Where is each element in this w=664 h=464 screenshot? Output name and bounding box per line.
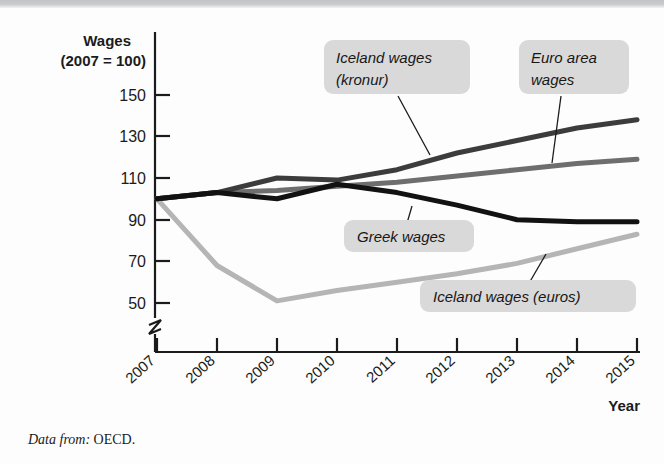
- y-axis-title-line1: Wages: [83, 32, 131, 49]
- x-tick-label-2007: 2007: [122, 352, 158, 387]
- x-tick-label-2011: 2011: [363, 352, 398, 386]
- wages-line-chart: Wages (2007 = 100) 150 130 110 90 70 50 …: [0, 0, 664, 464]
- callout-greek[interactable]: Greek wages: [344, 220, 474, 252]
- x-tick-label-2013: 2013: [482, 352, 518, 387]
- chart-series-layer: [157, 120, 637, 301]
- callout-euro-area[interactable]: Euro area wages: [519, 40, 629, 94]
- y-tick-label-110: 110: [120, 170, 146, 187]
- source-note: Data from: OECD.: [28, 432, 135, 448]
- y-tick-label-130: 130: [119, 128, 146, 145]
- x-tick-label-2015: 2015: [602, 352, 638, 387]
- source-note-value: OECD.: [94, 432, 136, 447]
- y-tick-label-70: 70: [128, 253, 146, 270]
- x-tick-label-2014: 2014: [542, 352, 578, 387]
- callout-label-iceland-euros: Iceland wages (euros): [433, 288, 581, 305]
- axis-break-symbol: [149, 320, 161, 334]
- x-tick-label-2008: 2008: [182, 352, 218, 387]
- x-tick-label-2012: 2012: [422, 352, 458, 387]
- y-axis-title-line2: (2007 = 100): [61, 52, 146, 69]
- source-note-label: Data from:: [28, 432, 90, 447]
- callout-iceland-euros[interactable]: Iceland wages (euros): [420, 280, 636, 312]
- x-axis-ticks: [157, 338, 637, 352]
- y-tick-label-90: 90: [128, 212, 146, 229]
- series-line-iceland-wages-kronur: [157, 120, 637, 199]
- callout-label-euro-area-line1: Euro area: [531, 49, 597, 66]
- callout-label-iceland-kronur-line2: (kronur): [336, 71, 389, 88]
- chart-figure: Wages (2007 = 100) 150 130 110 90 70 50 …: [0, 0, 664, 464]
- callout-label-euro-area-line2: wages: [531, 71, 575, 88]
- callout-label-greek: Greek wages: [357, 228, 446, 245]
- y-tick-label-150: 150: [119, 87, 146, 104]
- x-tick-label-2009: 2009: [242, 352, 278, 387]
- callout-iceland-kronur[interactable]: Iceland wages (kronur): [324, 40, 470, 94]
- leader-line-iceland-kronur: [398, 96, 430, 155]
- callout-label-iceland-kronur-line1: Iceland wages: [336, 49, 432, 66]
- x-axis-title: Year: [608, 397, 640, 414]
- y-tick-label-50: 50: [128, 295, 146, 312]
- x-tick-label-2010: 2010: [302, 352, 338, 387]
